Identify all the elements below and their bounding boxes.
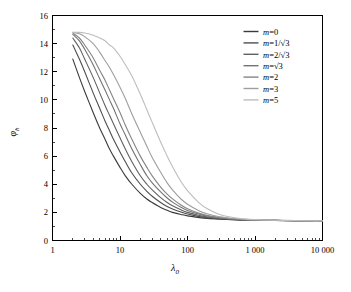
data-curves xyxy=(73,32,323,221)
y-tick-label: 6 xyxy=(44,151,48,161)
x-tick-label: 1 xyxy=(50,245,54,255)
y-tick-label: 8 xyxy=(44,123,48,133)
legend-label-2: m=2/√3 xyxy=(263,50,289,60)
x-tick-labels: 1101001 00010 000 xyxy=(50,245,334,255)
chart-figure: 0246810121416 1101001 00010 000 m=0m=1/√… xyxy=(0,0,351,292)
y-tick-label: 10 xyxy=(40,95,49,105)
x-axis-title: λ0 xyxy=(170,262,179,276)
legend-label-3: m=√3 xyxy=(263,61,283,71)
chart-legend: m=0m=1/√3m=2/√3m=√3m=2m=3m=5 xyxy=(244,27,290,105)
curve-series-0 xyxy=(73,59,323,221)
x-tick-label: 100 xyxy=(181,245,194,255)
y-axis-title: φh xyxy=(7,127,21,137)
y-tick-label: 16 xyxy=(40,11,49,21)
y-tick-label: 2 xyxy=(44,207,48,217)
legend-label-6: m=5 xyxy=(263,95,278,105)
legend-label-4: m=2 xyxy=(263,72,278,82)
curve-series-5 xyxy=(73,32,323,220)
svg-text:λ0: λ0 xyxy=(170,262,179,276)
curve-series-6 xyxy=(73,32,323,221)
y-tick-label: 0 xyxy=(44,236,48,246)
curve-series-1 xyxy=(73,45,323,221)
x-tick-label: 10 xyxy=(116,245,125,255)
chart-svg: 0246810121416 1101001 00010 000 m=0m=1/√… xyxy=(0,0,351,292)
curve-series-2 xyxy=(73,38,323,221)
y-tick-label: 12 xyxy=(40,67,49,77)
legend-label-5: m=3 xyxy=(263,84,278,94)
curve-series-3 xyxy=(73,34,323,220)
svg-text:φh: φh xyxy=(7,127,21,137)
legend-label-0: m=0 xyxy=(263,27,278,37)
legend-label-1: m=1/√3 xyxy=(263,38,289,48)
curve-series-4 xyxy=(73,33,323,221)
x-tick-label: 1 000 xyxy=(245,245,264,255)
y-tick-labels: 0246810121416 xyxy=(40,11,49,246)
y-tick-label: 14 xyxy=(40,39,49,49)
x-tick-label: 10 000 xyxy=(311,245,334,255)
y-tick-label: 4 xyxy=(44,179,49,189)
